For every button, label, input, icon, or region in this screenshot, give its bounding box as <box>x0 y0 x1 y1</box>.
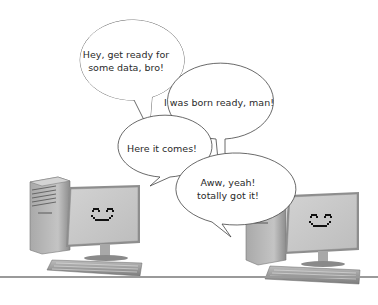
illustration-svg: Hey, get ready for some data, bro! I was… <box>0 0 378 305</box>
bubble-4-line-1: Aww, yeah! <box>201 177 256 188</box>
right-monitor-icon <box>285 192 359 267</box>
bottom-divider <box>0 276 378 278</box>
left-computer <box>30 177 142 276</box>
left-monitor-icon <box>66 185 140 261</box>
bubble-1-line-2: some data, bro! <box>88 62 164 73</box>
illustration-canvas: Hey, get ready for some data, bro! I was… <box>0 0 378 305</box>
right-keyboard-icon <box>265 266 360 284</box>
bubble-3-line-1: Here it comes! <box>127 143 197 154</box>
left-tower-icon <box>30 177 70 254</box>
bubble-4-line-2: totally got it! <box>197 190 259 201</box>
left-keyboard-icon <box>47 260 142 276</box>
bubble-1-line-1: Hey, get ready for <box>83 49 169 60</box>
bubble-2-line-1: I was born ready, man! <box>164 97 274 108</box>
